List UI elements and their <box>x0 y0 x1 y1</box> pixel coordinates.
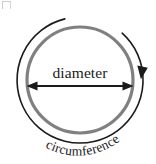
circumference-label-textpath: circumference <box>44 131 122 159</box>
circle-diagram-svg: diameter circumference <box>0 0 156 164</box>
circumference-label: circumference <box>44 131 122 159</box>
diameter-label: diameter <box>52 64 108 81</box>
figure-container: diameter circumference <box>0 0 156 164</box>
diameter-arrow-group <box>27 82 134 91</box>
arrow-down-icon <box>135 66 147 80</box>
